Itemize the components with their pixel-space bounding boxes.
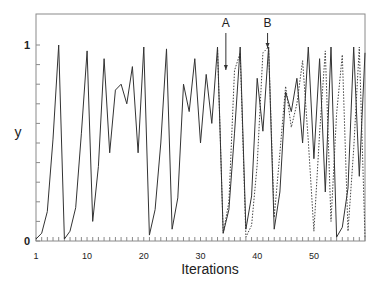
arrowhead-icon bbox=[224, 65, 228, 70]
x-tick-label: 30 bbox=[195, 251, 205, 261]
x-tick-label: 20 bbox=[139, 251, 149, 261]
y-tick-label: 1 bbox=[24, 39, 30, 51]
x-axis-tick-labels: 11020304050 bbox=[33, 251, 318, 261]
x-tick-label: 50 bbox=[309, 251, 319, 261]
y-axis-label: y bbox=[15, 124, 22, 140]
x-tick-label: 10 bbox=[82, 251, 92, 261]
x-tick-label: 1 bbox=[33, 251, 38, 261]
y-axis-tick-labels: 01 bbox=[24, 39, 30, 247]
chart-canvas: 01 11020304050 AB y Iterations bbox=[0, 0, 379, 285]
annotation-label-b: B bbox=[264, 16, 272, 30]
y-axis-ticks bbox=[36, 45, 40, 241]
x-axis-ticks bbox=[36, 237, 365, 241]
x-axis-label: Iterations bbox=[181, 261, 239, 277]
series-dashed-line bbox=[218, 47, 366, 237]
series-solid-line bbox=[36, 45, 365, 239]
x-tick-label: 40 bbox=[252, 251, 262, 261]
y-tick-label: 0 bbox=[24, 235, 30, 247]
annotations: AB bbox=[222, 16, 272, 70]
annotation-label-a: A bbox=[222, 16, 230, 30]
